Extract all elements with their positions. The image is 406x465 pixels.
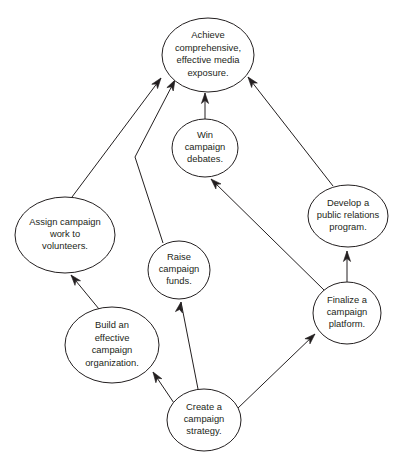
edge-organization-to-volunteers — [68, 273, 99, 309]
node-label-line: Create a — [186, 401, 223, 412]
edge-strategy-to-platform — [237, 331, 318, 409]
edge-strategy-to-organization — [150, 370, 176, 406]
edge-line — [237, 334, 315, 409]
edge-funds-to-achieve — [135, 78, 178, 243]
edge-strategy-to-funds — [175, 301, 198, 389]
node-label-line: debates. — [187, 154, 223, 165]
goal-network-diagram: Achievecomprehensive,effective mediaexpo… — [0, 0, 406, 465]
node-label-line: campaign — [184, 413, 225, 424]
edge-line — [211, 179, 325, 291]
node-label-line: Win — [197, 129, 213, 140]
edge-public_relations-to-achieve — [245, 75, 333, 186]
node-label-line: Assign campaign — [29, 216, 100, 227]
node-label-line: campaign — [327, 306, 368, 317]
node-public_relations[interactable]: Develop apublic relationsprogram. — [308, 185, 388, 247]
node-label-line: effective media — [177, 55, 241, 66]
node-label-line: effective — [95, 332, 130, 343]
node-label-line: Build an — [95, 320, 129, 331]
node-volunteers[interactable]: Assign campaignwork tovolunteers. — [15, 197, 115, 273]
node-label-line: volunteers. — [42, 241, 88, 252]
arrowhead-icon — [150, 370, 162, 383]
node-label-line: funds. — [166, 276, 192, 287]
node-label-line: campaign — [159, 263, 200, 274]
edge-line — [72, 78, 161, 197]
node-label-line: campaign — [185, 141, 226, 152]
node-organization[interactable]: Build aneffectivecampaignorganization. — [65, 307, 159, 383]
node-platform[interactable]: Finalize acampaignplatform. — [313, 282, 381, 344]
node-funds[interactable]: Raisecampaignfunds. — [148, 241, 210, 299]
arrowhead-icon — [245, 75, 257, 88]
node-label-line: program. — [329, 222, 367, 233]
diagram-canvas: Achievecomprehensive,effective mediaexpo… — [0, 0, 406, 465]
node-label-line: comprehensive, — [175, 42, 241, 53]
node-label: Finalize acampaignplatform. — [327, 294, 368, 330]
edge-debates-to-achieve — [201, 93, 208, 119]
edge-platform-to-debates — [208, 176, 325, 291]
nodes-layer: Achievecomprehensive,effective mediaexpo… — [15, 18, 388, 451]
node-label-line: work to — [49, 228, 80, 239]
arrowhead-icon — [68, 273, 80, 286]
edge-line — [181, 302, 198, 389]
node-label-line: Raise — [167, 251, 191, 262]
node-debates[interactable]: Wincampaigndebates. — [172, 119, 238, 177]
node-label-line: Achieve — [191, 30, 224, 41]
node-label-line: public relations — [317, 209, 380, 220]
edge-platform-to-public_relations — [343, 251, 350, 282]
arrowhead-icon — [152, 76, 164, 89]
node-label-line: Develop a — [327, 197, 370, 208]
node-label-line: campaign — [92, 345, 133, 356]
node-strategy[interactable]: Create acampaignstrategy. — [167, 389, 241, 451]
node-label-line: platform. — [329, 319, 365, 330]
edge-volunteers-to-achieve — [72, 76, 164, 197]
edge-line — [248, 77, 333, 186]
node-label-line: Finalize a — [327, 294, 368, 305]
node-achieve[interactable]: Achievecomprehensive,effective mediaexpo… — [162, 18, 254, 92]
node-label-line: organization. — [85, 357, 139, 368]
node-label: Create acampaignstrategy. — [184, 401, 225, 437]
node-label-line: exposure. — [187, 67, 228, 78]
node-label-line: strategy. — [186, 426, 221, 437]
